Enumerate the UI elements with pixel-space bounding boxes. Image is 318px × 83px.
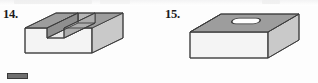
figure-15-number-label: 15. xyxy=(165,8,180,21)
scan-edge-artifact xyxy=(7,73,28,79)
figure-14: 14. xyxy=(0,0,160,83)
worksheet-page: 14. xyxy=(0,0,318,83)
figure-14-drawing xyxy=(24,6,126,64)
figure-14-number-label: 14. xyxy=(3,8,18,21)
figure-15-drawing xyxy=(189,6,305,66)
figure-15: 15. xyxy=(162,0,318,83)
fig15-oval-slot-hole xyxy=(230,18,261,24)
fig15-oval-hole-body xyxy=(230,18,261,24)
fig15-front-face xyxy=(190,32,268,58)
